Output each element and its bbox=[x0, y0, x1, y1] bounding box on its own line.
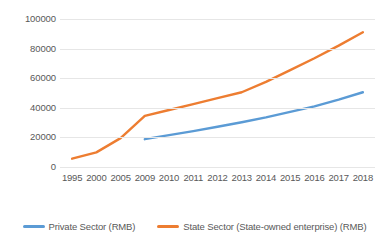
x-tick-label: 2015 bbox=[280, 172, 300, 184]
series-line bbox=[145, 92, 363, 139]
x-tick-label: 2018 bbox=[353, 172, 373, 184]
y-axis: 020000400006000080000100000 bbox=[0, 0, 56, 190]
x-tick-label: 2005 bbox=[110, 172, 130, 184]
x-axis: 1995200020052009201020112012201320142015… bbox=[60, 172, 375, 188]
y-tick-label: 80000 bbox=[0, 44, 56, 54]
x-tick-label: 1995 bbox=[62, 172, 82, 184]
gridline bbox=[60, 78, 375, 79]
y-tick-label: 60000 bbox=[0, 73, 56, 83]
gridline bbox=[60, 108, 375, 109]
x-tick-label: 2013 bbox=[232, 172, 252, 184]
legend-label: Private Sector (RMB) bbox=[49, 221, 136, 232]
x-tick-label: 2016 bbox=[304, 172, 324, 184]
legend-item[interactable]: Private Sector (RMB) bbox=[23, 221, 136, 232]
y-tick-label: 0 bbox=[0, 162, 56, 172]
y-tick-label: 100000 bbox=[0, 14, 56, 24]
series-lines bbox=[60, 19, 375, 167]
plot-area bbox=[60, 19, 375, 167]
legend-item[interactable]: State Sector (State-owned enterprise) (R… bbox=[157, 221, 366, 232]
series-line bbox=[72, 32, 363, 158]
y-tick-label: 20000 bbox=[0, 132, 56, 142]
x-tick-label: 2010 bbox=[159, 172, 179, 184]
x-tick-label: 2012 bbox=[207, 172, 227, 184]
y-tick-label: 40000 bbox=[0, 103, 56, 113]
legend-swatch bbox=[23, 225, 45, 228]
chart-legend: Private Sector (RMB)State Sector (State-… bbox=[0, 217, 389, 235]
gridline bbox=[60, 19, 375, 20]
line-chart: 020000400006000080000100000 199520002005… bbox=[0, 0, 389, 248]
gridline bbox=[60, 167, 375, 168]
x-tick-label: 2014 bbox=[256, 172, 276, 184]
gridline bbox=[60, 137, 375, 138]
x-tick-label: 2017 bbox=[328, 172, 348, 184]
legend-swatch bbox=[157, 225, 179, 228]
x-tick-label: 2011 bbox=[183, 172, 203, 184]
x-tick-label: 2009 bbox=[135, 172, 155, 184]
legend-label: State Sector (State-owned enterprise) (R… bbox=[183, 221, 366, 232]
gridline bbox=[60, 49, 375, 50]
x-tick-label: 2000 bbox=[86, 172, 106, 184]
